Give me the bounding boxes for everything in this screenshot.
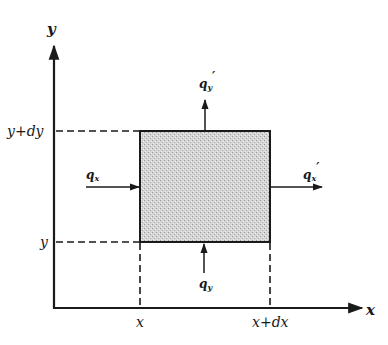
y-axis-label: y [46, 20, 57, 38]
tick-y-plus-dy: y+dy [6, 123, 45, 139]
tick-x-plus-dx: x+dx [252, 314, 289, 330]
q-y-in-label: qy [199, 277, 213, 292]
q-x-out-label: qx′ [303, 161, 320, 183]
control-volume-element [140, 131, 270, 242]
tick-x: x [136, 314, 144, 330]
q-x-in-label: qx [86, 168, 99, 183]
diagram-canvas: y x y+dy y x x+dx qx qx′ qy′ qy [0, 0, 388, 345]
q-y-out-label: qy′ [199, 70, 216, 92]
tick-y: y [39, 234, 49, 250]
x-axis-label: x [365, 301, 376, 319]
